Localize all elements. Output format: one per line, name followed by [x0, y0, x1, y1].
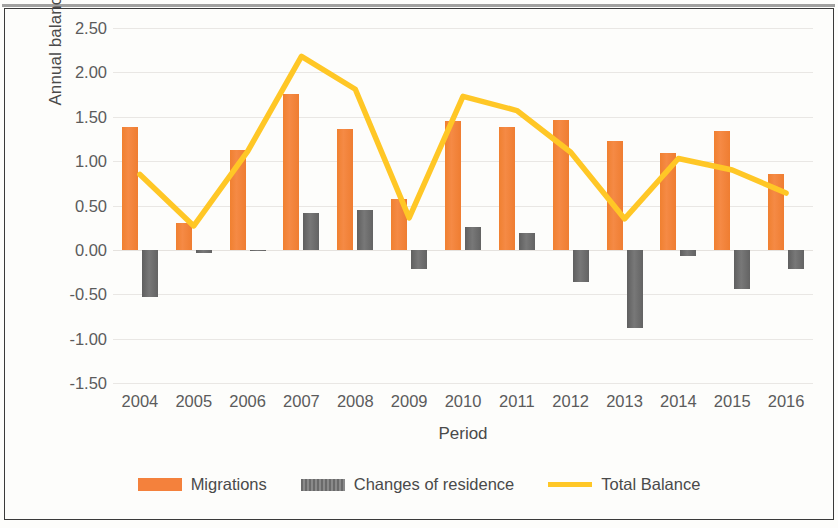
legend-item[interactable]: Changes of residence [301, 475, 515, 494]
legend-swatch-bar-gray-icon [301, 479, 345, 491]
x-tick-label: 2013 [595, 392, 655, 411]
y-tick-label: -1.50 [47, 374, 107, 393]
x-axis-tick-labels: 2004200520062007200820092010201120122013… [113, 392, 813, 418]
x-tick-label: 2012 [541, 392, 601, 411]
legend-label: Total Balance [601, 475, 700, 494]
x-tick-label: 2010 [433, 392, 493, 411]
legend-item[interactable]: Migrations [138, 475, 267, 494]
legend-swatch-line-yellow-icon [548, 482, 592, 487]
y-tick-label: 2.00 [47, 63, 107, 82]
legend-label: Migrations [191, 475, 267, 494]
y-tick-label: 2.50 [47, 19, 107, 38]
plot-area [113, 28, 813, 383]
x-tick-label: 2015 [702, 392, 762, 411]
annual-balance-chart: Annual balance (%) 2.502.001.501.000.500… [0, 0, 838, 528]
x-tick-label: 2011 [487, 392, 547, 411]
y-tick-label: -0.50 [47, 285, 107, 304]
gridline [113, 383, 813, 384]
y-tick-label: 1.50 [47, 107, 107, 126]
x-tick-label: 2006 [218, 392, 278, 411]
chart-legend: MigrationsChanges of residenceTotal Bala… [0, 475, 838, 494]
x-axis-title: Period [113, 424, 813, 444]
legend-label: Changes of residence [354, 475, 515, 494]
y-tick-label: 0.50 [47, 196, 107, 215]
x-tick-label: 2008 [325, 392, 385, 411]
x-tick-label: 2004 [110, 392, 170, 411]
y-tick-label: 0.00 [47, 240, 107, 259]
legend-swatch-bar-orange-icon [138, 478, 182, 491]
y-axis-tick-labels: 2.502.001.501.000.500.00-0.50-1.00-1.50 [47, 28, 107, 383]
x-tick-label: 2005 [164, 392, 224, 411]
legend-item[interactable]: Total Balance [548, 475, 700, 494]
total-balance-line [113, 28, 813, 383]
y-tick-label: 1.00 [47, 152, 107, 171]
total-balance-polyline [140, 56, 786, 226]
x-tick-label: 2007 [271, 392, 331, 411]
x-tick-label: 2009 [379, 392, 439, 411]
x-tick-label: 2016 [756, 392, 816, 411]
y-tick-label: -1.00 [47, 329, 107, 348]
x-tick-label: 2014 [648, 392, 708, 411]
